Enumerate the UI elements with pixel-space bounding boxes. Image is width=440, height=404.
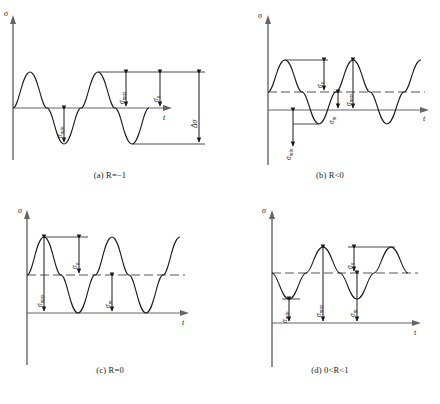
x-axis-arrow xyxy=(163,105,172,111)
sigma-a-label: σa xyxy=(315,81,325,88)
delta-sigma-label: Δσ xyxy=(190,120,199,129)
figure-bottom-caption-clipped xyxy=(0,392,440,402)
y-axis-label: σ xyxy=(262,206,267,215)
y-axis-arrow xyxy=(24,210,30,219)
sigma-m-label: σm xyxy=(103,300,113,308)
caption-b-text: (b) R<0 xyxy=(316,170,344,180)
x-axis-label: t xyxy=(423,114,426,123)
sigma-max-label: σmax xyxy=(35,294,45,307)
sigma-max-label: σmax xyxy=(314,304,324,317)
panel-b: σ t σa σmax σm σmin xyxy=(220,0,440,195)
x-axis-arrow xyxy=(420,107,429,113)
sigma-min-label: σmin xyxy=(280,311,290,323)
panel-d: σ t σmin σmax σa σm xyxy=(220,195,440,390)
fatigue-stress-cycle-figure: σ t σmin σmax σa Δσ (a) R=−1 xyxy=(0,0,440,404)
sigma-a-label: σa xyxy=(70,262,80,269)
caption-panel-c: (c) R=0 xyxy=(0,365,220,375)
y-axis-label: σ xyxy=(4,9,9,18)
x-axis-arrow xyxy=(180,310,189,316)
caption-c-text: (c) R=0 xyxy=(96,365,124,375)
x-axis-label: t xyxy=(182,318,185,327)
panel-a: σ t σmin σmax σa Δσ xyxy=(0,0,220,195)
caption-a-text: (a) R=−1 xyxy=(94,170,127,180)
y-axis-label: σ xyxy=(18,206,23,215)
sigma-max-label: σmax xyxy=(344,93,354,106)
panel-c: σ t σmax σa σm xyxy=(0,195,220,390)
y-axis-arrow xyxy=(10,15,16,24)
y-axis-label: σ xyxy=(258,11,263,20)
sigma-m-label: σm xyxy=(327,116,337,124)
y-axis-arrow xyxy=(265,15,271,24)
sigma-max-label: σmax xyxy=(117,91,127,104)
sigma-a-label: σa xyxy=(345,262,355,269)
caption-panel-b: (b) R<0 xyxy=(220,170,440,180)
y-axis-arrow xyxy=(269,210,275,219)
x-axis-label: t xyxy=(414,328,417,337)
caption-d-text: (d) 0<R<1 xyxy=(311,365,349,375)
x-axis-arrow xyxy=(412,320,421,326)
caption-panel-a: (a) R=−1 xyxy=(0,170,220,180)
sigma-a-label: σa xyxy=(151,95,161,102)
caption-panel-d: (d) 0<R<1 xyxy=(220,365,440,375)
sigma-m-label: σm xyxy=(348,309,358,317)
sigma-min-label: σmin xyxy=(284,148,294,160)
x-axis-label: t xyxy=(163,113,166,122)
